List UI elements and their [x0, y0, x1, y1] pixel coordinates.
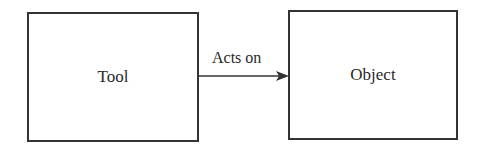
edge-label: Acts on: [212, 49, 261, 67]
acts-on-arrow: [0, 0, 480, 148]
